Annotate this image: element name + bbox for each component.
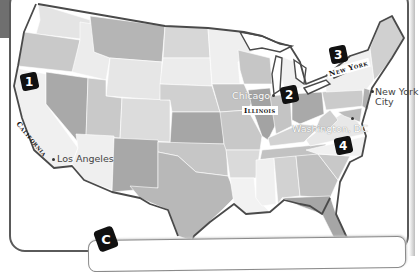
state-wisconsin bbox=[238, 50, 272, 84]
state-new-mexico bbox=[112, 138, 158, 192]
city-dot-chicago bbox=[272, 94, 275, 97]
city-los-angeles: Los Angeles bbox=[57, 154, 114, 164]
state-kansas bbox=[170, 112, 224, 144]
state-label-illinois: Illinois bbox=[242, 106, 278, 115]
state-north-dakota bbox=[163, 26, 210, 58]
marker-2[interactable]: 2 bbox=[279, 84, 299, 104]
city-dot-washington-dc bbox=[351, 117, 354, 120]
city-new-york-city-line2: City bbox=[375, 97, 419, 107]
city-chicago: Chicago bbox=[232, 91, 270, 101]
marker-4[interactable]: 4 bbox=[333, 135, 353, 155]
marker-1[interactable]: 1 bbox=[19, 71, 39, 91]
state-arkansas bbox=[226, 150, 260, 178]
state-colorado bbox=[120, 98, 170, 142]
info-box bbox=[88, 236, 406, 272]
state-alabama bbox=[274, 156, 300, 204]
state-south-dakota bbox=[160, 58, 212, 86]
marker-3[interactable]: 3 bbox=[328, 44, 348, 64]
state-mississippi bbox=[256, 158, 276, 206]
city-dot-los-angeles bbox=[52, 158, 55, 161]
city-washington-dc: Washington, DC bbox=[292, 124, 368, 134]
city-dot-new-york-city bbox=[371, 90, 374, 93]
city-new-york-city: New York City bbox=[375, 87, 419, 107]
state-wyoming bbox=[106, 58, 162, 100]
